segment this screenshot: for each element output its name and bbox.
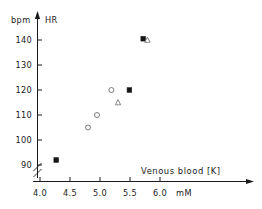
y-tick-label: 90: [21, 160, 32, 170]
data-point-open-triangle: [115, 100, 120, 105]
x-tick-label: 4.5: [63, 188, 77, 198]
x-tick-label: 4.0: [33, 188, 47, 198]
y-tick-label: 110: [15, 110, 32, 120]
x-axis-group: [33, 179, 254, 184]
chart-figure: 90100110120130140 4.04.55.05.56.0 bpm HR…: [0, 0, 262, 209]
y-axis-group: [34, 11, 42, 178]
y-axis-unit-label: bpm: [11, 15, 31, 25]
data-point-open-circle: [86, 125, 91, 130]
x-tick-label: 5.0: [93, 188, 107, 198]
y-axis-title: HR: [45, 15, 58, 25]
y-axis-arrowhead: [35, 11, 40, 19]
data-point-filled-square: [127, 88, 132, 93]
x-tick-label: 5.5: [123, 188, 137, 198]
data-point-open-circle: [95, 113, 100, 118]
scatter-plot: 90100110120130140 4.04.55.05.56.0 bpm HR…: [0, 0, 262, 209]
y-tick-label: 100: [15, 135, 32, 145]
x-axis-ticks: 4.04.55.05.56.0: [33, 177, 167, 198]
x-axis-arrowhead: [246, 179, 254, 184]
data-point-filled-square: [141, 36, 146, 41]
y-axis-ticks: 90100110120130140: [15, 35, 42, 170]
x-axis-unit-label: mM: [176, 188, 192, 198]
y-tick-label: 130: [15, 60, 32, 70]
x-tick-label: 6.0: [153, 188, 167, 198]
x-axis-title: Venous blood [K]: [141, 166, 221, 176]
y-tick-label: 120: [15, 85, 32, 95]
y-tick-label: 140: [15, 35, 32, 45]
data-point-filled-square: [54, 158, 59, 163]
data-point-open-circle: [109, 88, 114, 93]
data-points-group: [54, 36, 150, 162]
